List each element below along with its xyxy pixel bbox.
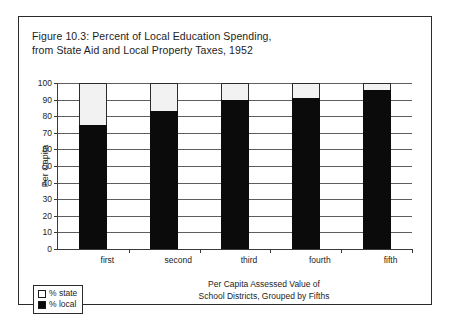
x-tick-label: second: [148, 255, 208, 265]
x-axis-title: Per Capita Assessed Value of School Dist…: [139, 279, 389, 302]
legend-item[interactable]: % local: [38, 299, 77, 310]
y-tick-mark: [54, 149, 58, 150]
figure-title: Figure 10.3: Percent of Local Education …: [32, 29, 412, 57]
bar-segment-local[interactable]: [221, 100, 249, 249]
x-tick-mark: [412, 249, 413, 253]
x-tick-mark: [270, 249, 271, 253]
y-tick-mark: [54, 216, 58, 217]
y-tick-mark: [54, 232, 58, 233]
y-tick-label: 20: [43, 212, 52, 221]
bar-group[interactable]: [79, 83, 107, 249]
y-tick-label: 0: [47, 245, 52, 254]
y-tick-label: 50: [43, 162, 52, 171]
y-tick-label: 10: [43, 228, 52, 237]
x-tick-label: first: [77, 255, 137, 265]
y-tick-mark: [54, 183, 58, 184]
bar-segment-local[interactable]: [79, 125, 107, 250]
x-tick-label: fourth: [290, 255, 350, 265]
bar-segment-state[interactable]: [221, 83, 249, 100]
x-tick-label: fifth: [361, 255, 421, 265]
figure-frame: Figure 10.3: Percent of Local Education …: [18, 16, 432, 305]
x-axis-title-line-1: Per Capita Assessed Value of: [139, 279, 389, 291]
x-axis-title-line-2: School Districts, Grouped by Fifths: [139, 291, 389, 303]
y-tick-label: 80: [43, 112, 52, 121]
y-tick-label: 100: [38, 79, 52, 88]
x-tick-label: third: [219, 255, 279, 265]
x-tick-mark: [200, 249, 201, 253]
legend-item[interactable]: % state: [38, 288, 77, 299]
y-tick-mark: [54, 249, 58, 250]
y-tick-label: 60: [43, 145, 52, 154]
y-tick-mark: [54, 166, 58, 167]
bar-segment-state[interactable]: [150, 83, 178, 111]
bar-segment-local[interactable]: [150, 111, 178, 249]
y-tick-label: 90: [43, 96, 52, 105]
y-tick-mark: [54, 199, 58, 200]
bar-segment-state[interactable]: [363, 83, 391, 90]
y-tick-label: 40: [43, 179, 52, 188]
figure-title-line-2: from State Aid and Local Property Taxes,…: [32, 43, 412, 57]
bar-group[interactable]: [292, 83, 320, 249]
chart-legend: % state% local: [33, 285, 83, 314]
white-square-icon: [38, 290, 46, 298]
bar-group[interactable]: [363, 83, 391, 249]
y-tick-label: 30: [43, 195, 52, 204]
bar-segment-state[interactable]: [292, 83, 320, 98]
y-tick-mark: [54, 116, 58, 117]
bar-segment-local[interactable]: [292, 98, 320, 249]
bar-group[interactable]: [221, 83, 249, 249]
x-tick-mark: [341, 249, 342, 253]
bar-segment-local[interactable]: [363, 90, 391, 249]
x-tick-mark: [129, 249, 130, 253]
y-tick-label: 70: [43, 129, 52, 138]
bar-group[interactable]: [150, 83, 178, 249]
plot-area: Per Capita 0102030405060708090100 firsts…: [57, 83, 412, 250]
figure-title-line-1: Figure 10.3: Percent of Local Education …: [32, 29, 412, 43]
legend-item-label: % local: [49, 299, 76, 310]
bar-segment-state[interactable]: [79, 83, 107, 125]
black-square-icon: [38, 301, 46, 309]
y-tick-mark: [54, 133, 58, 134]
y-tick-mark: [54, 83, 58, 84]
legend-item-label: % state: [49, 288, 77, 299]
y-tick-mark: [54, 100, 58, 101]
